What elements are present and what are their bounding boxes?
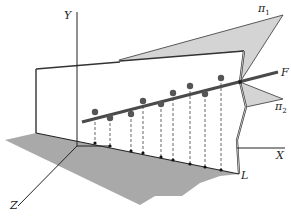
line-f-label: F [281, 67, 289, 78]
intersection-point [238, 80, 242, 84]
x-axis-label: X [276, 150, 284, 161]
line-l-label: L [241, 170, 248, 181]
plane-pi2-label: π2 [275, 101, 287, 115]
plane-pi1-label: π1 [258, 3, 270, 17]
z-axis-label: Z [10, 200, 18, 211]
diagram-canvas [0, 0, 291, 218]
y-axis-label: Y [64, 10, 71, 21]
plane-pi2-subscript: 2 [282, 107, 286, 115]
plane-pi1-subscript: 1 [265, 9, 269, 17]
